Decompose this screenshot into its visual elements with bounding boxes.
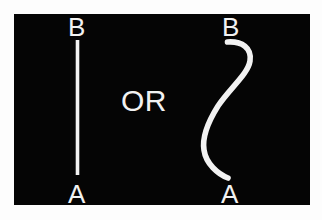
- figure-canvas: B A OR B A: [14, 14, 310, 205]
- curved-path-label-b: B: [222, 14, 239, 40]
- straight-path-label-b: B: [68, 14, 85, 40]
- figure-root: B A OR B A: [0, 0, 322, 220]
- or-connector-label: OR: [121, 86, 167, 116]
- curved-path-label-a: A: [221, 181, 238, 205]
- curved-s-path: [204, 42, 251, 178]
- straight-path-label-a: A: [68, 181, 85, 205]
